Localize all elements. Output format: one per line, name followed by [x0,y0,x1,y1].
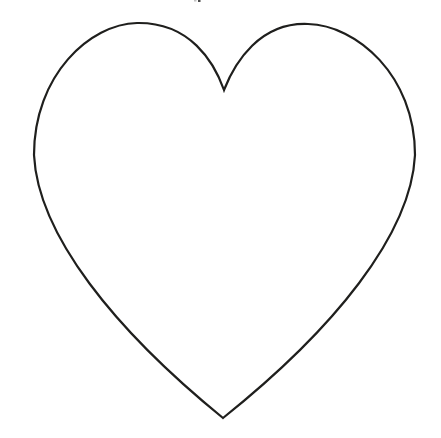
heart-outline-drawing [0,0,441,438]
heart-outline-path [34,23,415,418]
canvas [0,0,441,438]
top-edge-artifact-mark [198,0,201,2]
top-edge-artifact-mark [194,0,197,2]
